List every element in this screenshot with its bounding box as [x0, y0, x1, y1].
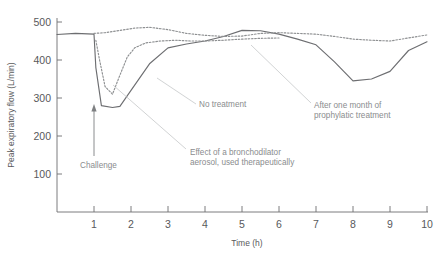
x-tick-label-6: 6 — [276, 218, 282, 230]
y-tick-label-300: 300 — [33, 92, 51, 104]
x-tick-label-1: 1 — [91, 218, 97, 230]
x-axis-title: Time (h) — [231, 238, 262, 248]
x-tick-label-4: 4 — [202, 218, 208, 230]
y-tick-label-400: 400 — [33, 54, 51, 66]
no-treatment-label: No treatment — [199, 100, 247, 109]
y-tick-label-100: 100 — [33, 168, 51, 180]
x-axis-ticks — [94, 206, 427, 212]
series-prophylatic — [94, 27, 427, 41]
x-tick-label-9: 9 — [387, 218, 393, 230]
x-tick-label-8: 8 — [350, 218, 356, 230]
no-treatment-annotation: No treatment — [157, 78, 247, 109]
prophylatic-leader-line — [251, 45, 311, 103]
chart-container: 500 400 300 200 100 1 2 3 4 5 6 7 8 9 10… — [0, 0, 444, 254]
x-tick-label-5: 5 — [239, 218, 245, 230]
prophylatic-annotation: After one month of prophylatic treatment — [251, 45, 391, 120]
bronchodilator-label-line2: aerosol, used therapeutically — [190, 158, 295, 167]
y-tick-label-500: 500 — [33, 16, 51, 28]
y-tick-label-200: 200 — [33, 130, 51, 142]
no-treatment-leader-line — [157, 78, 196, 104]
prophylatic-label-line1: After one month of — [314, 101, 382, 110]
y-axis-ticks — [57, 22, 62, 174]
bronchodilator-label-line1: Effect of a bronchodilator — [190, 148, 281, 157]
x-tick-label-10: 10 — [421, 218, 433, 230]
challenge-annotation: Challenge — [80, 104, 117, 170]
peak-expiratory-flow-chart: 500 400 300 200 100 1 2 3 4 5 6 7 8 9 10… — [0, 0, 444, 254]
x-tick-label-2: 2 — [128, 218, 134, 230]
series-bronchodilator — [96, 38, 279, 94]
challenge-arrow-head-icon — [91, 104, 96, 112]
series-no-treatment — [57, 30, 427, 107]
x-tick-label-7: 7 — [313, 218, 319, 230]
x-tick-label-3: 3 — [165, 218, 171, 230]
bronchodilator-annotation: Effect of a bronchodilator aerosol, used… — [113, 85, 295, 167]
y-axis-title: Peak expiratory flow (L/min) — [6, 62, 16, 168]
bronchodilator-leader-line — [113, 85, 186, 149]
prophylatic-label-line2: prophylatic treatment — [314, 111, 391, 120]
challenge-label: Challenge — [80, 161, 117, 170]
